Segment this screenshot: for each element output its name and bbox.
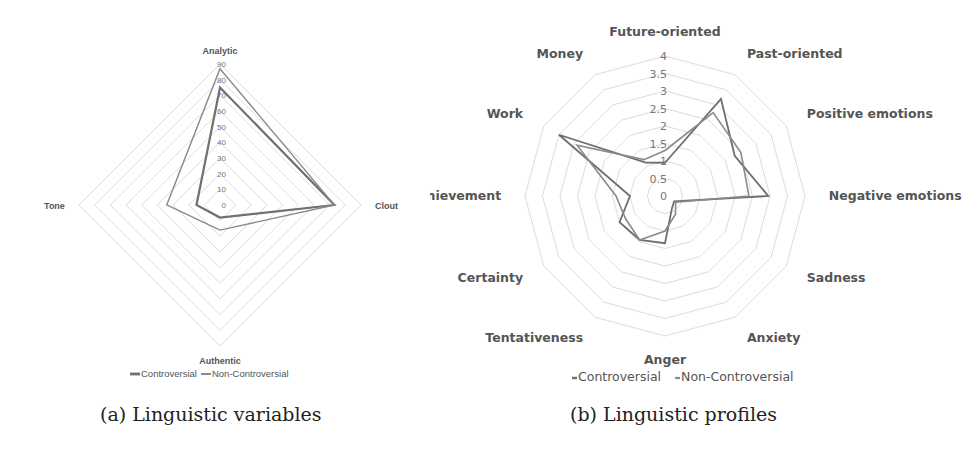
figure-caption-b: (b) Linguistic profiles (570, 403, 777, 425)
tick-label: 0.5 (650, 173, 668, 186)
svg-text:Controversial: Controversial (141, 368, 197, 379)
axis-label-anger: Anger (644, 352, 687, 367)
tick-label: 90 (217, 60, 226, 69)
radar-chart-linguistic-variables: 0102030405060708090AnalyticCloutAuthenti… (0, 0, 440, 395)
legend-item-controversial: Controversial (572, 369, 661, 384)
tick-label: 50 (217, 123, 226, 132)
axis-label-authentic: Authentic (199, 356, 241, 366)
tick-label: 0 (660, 190, 667, 203)
tick-label: 0 (222, 201, 227, 210)
tick-label: 1.5 (650, 138, 668, 151)
tick-label: 40 (217, 138, 226, 147)
axis-label-money: Money (537, 46, 584, 61)
radar-plot-b: 00.511.522.533.54Future-orientedPast-ori… (430, 0, 977, 395)
axis-label-tone: Tone (44, 201, 65, 211)
tick-label: 80 (217, 76, 226, 85)
legend-item-non-controversial: Non-Controversial (675, 369, 794, 384)
tick-label: 60 (217, 107, 226, 116)
axis-label-sadness: Sadness (807, 270, 866, 285)
radar-chart-linguistic-profiles: 00.511.522.533.54Future-orientedPast-ori… (430, 0, 977, 395)
radar-plot-a: 0102030405060708090AnalyticCloutAuthenti… (0, 0, 440, 395)
series-controversial (197, 88, 335, 218)
axis-label-positive-emotions: Positive emotions (807, 106, 933, 121)
legend-item-non-controversial: Non-Controversial (201, 368, 289, 379)
axis-label-anxiety: Anxiety (747, 330, 801, 345)
svg-text:Controversial: Controversial (578, 369, 661, 384)
tick-label: 10 (217, 185, 226, 194)
tick-label: 2.5 (650, 103, 668, 116)
axis-label-achievement: Achievement (430, 188, 501, 203)
tick-label: 3.5 (650, 68, 668, 81)
tick-label: 4 (660, 50, 667, 63)
axis-label-certainty: Certainty (458, 270, 524, 285)
axis-label-past-oriented: Past-oriented (747, 46, 843, 61)
svg-text:Non-Controversial: Non-Controversial (681, 369, 794, 384)
axis-label-analytic: Analytic (202, 46, 237, 56)
figure-caption-a: (a) Linguistic variables (100, 403, 322, 425)
axis-label-negative-emotions: Negative emotions (829, 188, 962, 203)
tick-label: 3 (660, 85, 667, 98)
axis-label-work: Work (487, 106, 524, 121)
axis-label-future-oriented: Future-oriented (609, 24, 720, 39)
axis-label-clout: Clout (375, 201, 398, 211)
tick-label: 2 (660, 120, 667, 133)
axis-label-tentativeness: Tentativeness (485, 330, 583, 345)
tick-label: 20 (217, 170, 226, 179)
legend-item-controversial: Controversial (130, 368, 197, 379)
tick-label: 30 (217, 154, 226, 163)
svg-text:Non-Controversial: Non-Controversial (212, 368, 289, 379)
